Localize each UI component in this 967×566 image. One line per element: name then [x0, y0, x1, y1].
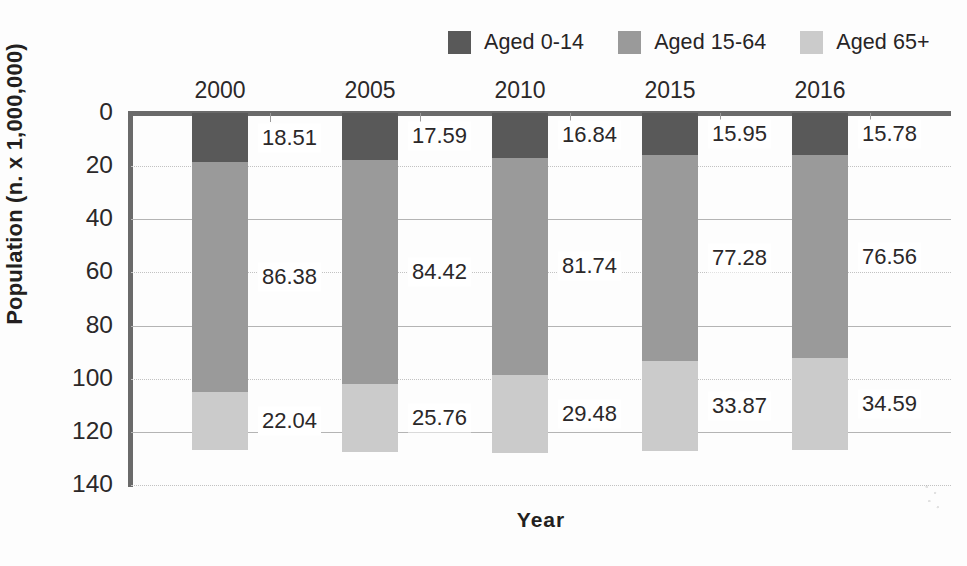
bar-segment[interactable] [492, 375, 548, 453]
y-axis-tick-label: 40 [47, 205, 113, 233]
bar-segment[interactable] [342, 160, 398, 384]
x-axis-title: Year [131, 508, 951, 532]
legend-entry[interactable]: Aged 65+ [800, 30, 929, 55]
bar-segment[interactable] [642, 155, 698, 360]
bar-value-label: 84.42 [408, 257, 471, 286]
x-axis-tick-mark [420, 113, 421, 122]
x-axis-tick-mark [270, 113, 271, 122]
bar-value-label: 17.59 [408, 122, 471, 151]
x-axis-tick-label: 2015 [610, 77, 730, 104]
bar-segment[interactable] [342, 384, 398, 452]
bar-segment[interactable] [192, 113, 248, 162]
bar-value-label: 22.04 [258, 406, 321, 435]
bar-value-label: 15.95 [708, 120, 771, 149]
bar-value-label: 86.38 [258, 262, 321, 291]
bar-segment[interactable] [192, 162, 248, 392]
x-axis-tick-label: 2005 [310, 77, 430, 104]
scan-artifact [919, 480, 945, 514]
bar-segment[interactable] [192, 392, 248, 451]
y-axis-tick-label: 0 [47, 98, 113, 126]
bar-value-label: 77.28 [708, 244, 771, 273]
legend-entry[interactable]: Aged 15-64 [618, 30, 766, 55]
bar-value-label: 33.87 [708, 391, 771, 420]
bar-value-label: 81.74 [558, 252, 621, 281]
chart-screenshot: Aged 0-14Aged 15-64Aged 65+ Population (… [0, 0, 967, 566]
legend-label: Aged 65+ [836, 30, 929, 55]
bar-segment[interactable] [792, 113, 848, 155]
bar-segment[interactable] [642, 113, 698, 155]
y-axis-tick-label: 80 [47, 311, 113, 339]
plot-area: 020406080100120140 200018.5186.3822.0420… [131, 113, 951, 485]
stacked-bar[interactable] [492, 113, 548, 485]
y-axis-tick-label: 100 [47, 364, 113, 392]
y-axis-tick-label: 20 [47, 152, 113, 180]
stacked-bar[interactable] [642, 113, 698, 485]
y-axis-tick-label: 60 [47, 258, 113, 286]
bar-segment[interactable] [642, 361, 698, 451]
x-axis-tick-label: 2016 [760, 77, 880, 104]
y-axis-tick-label: 140 [47, 470, 113, 498]
x-axis-tick-label: 2010 [460, 77, 580, 104]
legend-swatch-icon [618, 31, 641, 54]
bar-segment[interactable] [492, 113, 548, 158]
bar-segment[interactable] [492, 158, 548, 375]
y-axis-title: Population (n. x 1,000,000) [2, 19, 28, 349]
legend-label: Aged 15-64 [654, 30, 766, 55]
x-axis-tick-label: 2000 [160, 77, 280, 104]
bar-segment[interactable] [342, 113, 398, 160]
stacked-bar[interactable] [192, 113, 248, 485]
stacked-bar[interactable] [792, 113, 848, 485]
legend-entry[interactable]: Aged 0-14 [448, 30, 584, 55]
bar-segment[interactable] [792, 155, 848, 358]
gridline [131, 485, 951, 486]
bar-segment[interactable] [792, 358, 848, 450]
bar-value-label: 16.84 [558, 121, 621, 150]
bar-value-label: 18.51 [258, 123, 321, 152]
stacked-bar[interactable] [342, 113, 398, 485]
bar-value-label: 29.48 [558, 400, 621, 429]
bar-value-label: 76.56 [858, 242, 921, 271]
legend-swatch-icon [448, 31, 471, 54]
chart-legend: Aged 0-14Aged 15-64Aged 65+ [448, 30, 930, 55]
legend-label: Aged 0-14 [484, 30, 584, 55]
legend-swatch-icon [800, 31, 823, 54]
bar-value-label: 15.78 [858, 119, 921, 148]
y-axis-tick-label: 120 [47, 417, 113, 445]
bar-value-label: 34.59 [858, 390, 921, 419]
bar-value-label: 25.76 [408, 404, 471, 433]
